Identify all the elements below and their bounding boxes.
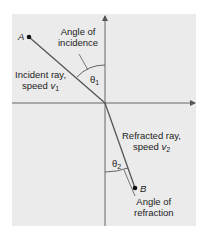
angle-refraction-label: Angle of refraction	[134, 196, 174, 218]
point-a	[27, 35, 32, 40]
point-a-label: A	[18, 31, 24, 42]
theta1-label: θ1	[90, 74, 99, 88]
point-b	[133, 186, 138, 191]
incident-ray-label: Incident ray, speed v1	[15, 69, 66, 94]
incidence-leader	[79, 54, 88, 70]
point-b-label: B	[140, 183, 146, 194]
refraction-diagram	[0, 0, 207, 238]
theta2-label: θ2	[112, 158, 121, 172]
angle-incidence-label: Angle of incidence	[58, 26, 98, 48]
refracted-ray-label: Refracted ray, speed v2	[122, 130, 181, 155]
